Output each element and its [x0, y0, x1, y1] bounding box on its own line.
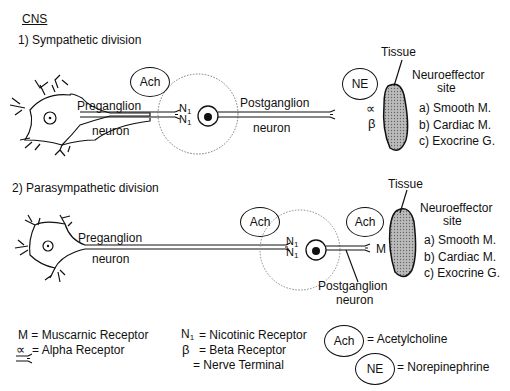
sympathetic-ne-circle: NE	[342, 68, 378, 100]
cns-title: CNS	[22, 13, 47, 25]
legend-ach-circle: Ach	[324, 325, 364, 357]
sympathetic-post-label: Postganglion	[240, 97, 309, 109]
sympathetic-site-label: Neuroeffector	[412, 69, 485, 81]
parasympathetic-target: b) Cardiac M.	[424, 251, 496, 263]
sympathetic-pre-label-2: neuron	[92, 125, 129, 137]
legend-alpha-symbol: ∝	[16, 343, 25, 356]
sympathetic-target: c) Exocrine G.	[419, 135, 495, 147]
legend-beta: = Beta Receptor	[199, 344, 286, 356]
parasympathetic-site-label-2: site	[443, 215, 462, 227]
alpha-receptor-symbol: ∝	[366, 102, 375, 115]
legend-beta-symbol: β	[182, 343, 189, 356]
parasympathetic-pre-label-2: neuron	[92, 253, 129, 265]
sympathetic-post-label-2: neuron	[253, 122, 290, 134]
legend-nicotinic: = Nicotinic Receptor	[199, 329, 307, 341]
muscarinic-receptor-symbol: M	[376, 243, 386, 255]
parasympathetic-post-label-2: neuron	[336, 294, 373, 306]
sympathetic-ach-circle: Ach	[130, 67, 170, 97]
legend-nerve-terminal: = Nerve Terminal	[193, 359, 284, 371]
sympathetic-n1-receptor-bottom: N1	[179, 114, 191, 127]
parasympathetic-target: c) Exocrine G.	[424, 267, 500, 279]
sympathetic-target: a) Smooth M.	[419, 102, 491, 114]
sympathetic-site-label-2: site	[437, 82, 456, 94]
legend-acetylcholine: = Acetylcholine	[367, 333, 447, 345]
parasympathetic-tissue-label: Tissue	[388, 178, 423, 190]
sympathetic-tissue-label: Tissue	[381, 46, 416, 58]
beta-receptor-symbol: β	[368, 117, 375, 130]
parasympathetic-n1-receptor-bottom: N1	[286, 247, 298, 260]
parasympathetic-pre-label: Preganglion	[78, 232, 142, 244]
sympathetic-pre-label: Preganglion	[77, 100, 141, 112]
legend-nicotinic-symbol: N1	[181, 328, 194, 342]
legend-alpha: = Alpha Receptor	[32, 344, 124, 356]
parasympathetic-post-label: Postganglion	[318, 280, 387, 292]
legend-ne-circle: NE	[355, 353, 395, 385]
sympathetic-preganglion-cell-body	[10, 75, 150, 156]
legend-norepinephrine: = Norepinephrine	[397, 361, 489, 373]
sympathetic-heading: 1) Sympathetic division	[18, 34, 141, 46]
parasympathetic-ach-circle-pre: Ach	[240, 207, 280, 237]
sympathetic-target: b) Cardiac M.	[419, 119, 491, 131]
parasympathetic-site-label: Neuroeffector	[420, 202, 493, 214]
parasympathetic-heading: 2) Parasympathetic division	[12, 182, 159, 194]
parasympathetic-target: a) Smooth M.	[424, 234, 496, 246]
parasympathetic-ach-circle-post: Ach	[346, 207, 384, 237]
legend-muscarinic: M = Muscarnic Receptor	[18, 329, 148, 341]
